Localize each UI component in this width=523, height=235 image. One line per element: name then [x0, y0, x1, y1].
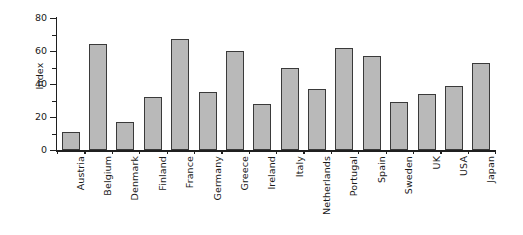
x-tick-label: Germany [212, 156, 224, 232]
bar-slot [445, 86, 463, 150]
bar[interactable] [390, 102, 408, 150]
bar-slot [226, 51, 244, 150]
x-tick-mark [57, 150, 58, 154]
x-tick-label: Ireland [266, 156, 278, 232]
bar[interactable] [144, 97, 162, 150]
plot-area: 020406080 [57, 18, 495, 150]
x-tick-mark [358, 150, 359, 154]
x-tick-mark [440, 150, 441, 154]
bar-slot [144, 97, 162, 150]
bars-group [57, 18, 495, 150]
bar[interactable] [281, 68, 299, 151]
x-tick-label: UK [431, 156, 443, 232]
bar-chart-figure: Index 020406080 AustriaBelgiumDenmarkFin… [0, 0, 523, 235]
bar-slot [116, 122, 134, 150]
bar-slot [89, 44, 107, 150]
bar[interactable] [171, 39, 189, 150]
x-tick-label: Finland [157, 156, 169, 232]
x-tick-label: Austria [75, 156, 87, 232]
x-tick-mark [84, 150, 85, 154]
y-tick-mark [50, 51, 57, 52]
x-tick-label: Sweden [403, 156, 415, 232]
bar-slot [253, 104, 271, 150]
bar[interactable] [363, 56, 381, 150]
x-tick-mark [249, 150, 250, 154]
bar-slot [363, 56, 381, 150]
y-tick-label: 40 [17, 78, 47, 89]
bar[interactable] [116, 122, 134, 150]
y-tick-mark [50, 150, 57, 151]
bar[interactable] [62, 132, 80, 150]
y-tick-mark [50, 18, 57, 19]
bar[interactable] [472, 63, 490, 150]
x-tick-label: Japan [485, 156, 497, 232]
x-tick-mark [112, 150, 113, 154]
x-tick-mark [221, 150, 222, 154]
y-tick-mark [50, 84, 57, 85]
y-tick-label: 0 [17, 144, 47, 155]
bar[interactable] [89, 44, 107, 150]
bar-slot [62, 132, 80, 150]
x-tick-mark [276, 150, 277, 154]
x-tick-mark [468, 150, 469, 154]
bar[interactable] [253, 104, 271, 150]
y-tick-label: 20 [17, 111, 47, 122]
bar-slot [418, 94, 436, 150]
bar[interactable] [335, 48, 353, 150]
y-tick-mark [50, 117, 57, 118]
bar-slot [281, 68, 299, 151]
x-tick-label: Italy [294, 156, 306, 232]
x-tick-label: Netherlands [321, 156, 333, 232]
x-tick-mark [386, 150, 387, 154]
bar[interactable] [418, 94, 436, 150]
x-tick-mark [331, 150, 332, 154]
bar[interactable] [308, 89, 326, 150]
bar-slot [171, 39, 189, 150]
x-tick-label: Belgium [102, 156, 114, 232]
x-axis-labels: AustriaBelgiumDenmarkFinlandFranceGerman… [57, 156, 495, 232]
x-tick-mark [167, 150, 168, 154]
x-tick-label: Portugal [348, 156, 360, 232]
bar-slot [308, 89, 326, 150]
y-tick-label: 60 [17, 45, 47, 56]
bar-slot [472, 63, 490, 150]
x-tick-label: USA [458, 156, 470, 232]
bar-slot [199, 92, 217, 150]
y-tick-label: 80 [17, 12, 47, 23]
bar-slot [390, 102, 408, 150]
x-tick-mark [139, 150, 140, 154]
x-tick-mark [303, 150, 304, 154]
bar[interactable] [445, 86, 463, 150]
x-tick-label: Greece [239, 156, 251, 232]
x-tick-mark [413, 150, 414, 154]
x-tick-label: Spain [376, 156, 388, 232]
bar-slot [335, 48, 353, 150]
x-tick-mark [194, 150, 195, 154]
x-tick-label: France [184, 156, 196, 232]
bar[interactable] [199, 92, 217, 150]
x-tick-label: Denmark [129, 156, 141, 232]
bar[interactable] [226, 51, 244, 150]
x-tick-mark [495, 150, 496, 154]
